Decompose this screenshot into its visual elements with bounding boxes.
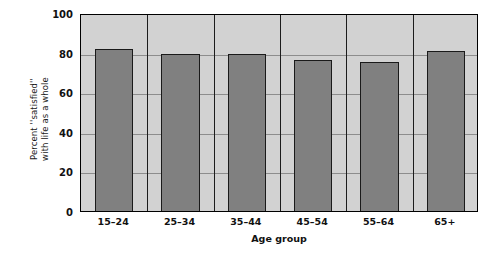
x-axis-tick-label: 55–64 [363,216,394,227]
y-axis-tick-label: 100 [44,9,78,20]
bar [161,54,199,211]
bar [294,60,332,211]
x-axis-tick-labels: 15–2425–3435–4445–5455–6465+ [80,216,478,232]
bar-chart-figure: Percent ''satisfied'' with life as a who… [0,0,500,264]
y-axis-tick-labels: 020406080100 [44,0,78,264]
x-axis-tick-label: 25–34 [164,216,195,227]
x-axis-tick-label: 35–44 [230,216,261,227]
x-axis-title: Age group [80,233,478,244]
y-axis-title-line1: Percent ''satisfied'' [29,77,40,161]
plot-area [80,14,478,212]
x-axis-tick-label: 15–24 [98,216,129,227]
bar [228,54,266,211]
y-axis-tick-label: 0 [44,207,78,218]
x-axis-tick-label: 45–54 [297,216,328,227]
y-axis-tick-label: 60 [44,88,78,99]
bar [427,51,465,211]
x-axis-tick-label: 65+ [434,216,455,227]
y-axis-tick-label: 40 [44,127,78,138]
y-axis-tick-label: 80 [44,48,78,59]
bar [360,62,398,211]
y-axis-tick-label: 20 [44,167,78,178]
bars-layer [81,15,477,211]
bar [95,49,133,211]
